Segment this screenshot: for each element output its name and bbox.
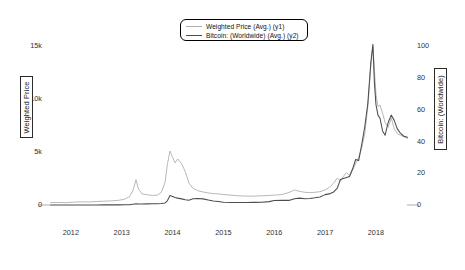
x-tick-2012: 2012 xyxy=(51,228,91,237)
y1-tick-5k: 5k xyxy=(4,147,42,156)
y2-tick-0: 0 xyxy=(417,200,455,209)
chart-legend: Weighted Price (Avg.) (y1) Bitcoin: (Wor… xyxy=(180,19,308,41)
y2-tick-20: 20 xyxy=(417,168,455,177)
legend-swatch-icon-series1 xyxy=(186,26,202,27)
y1-axis-title: Weighted Price xyxy=(20,76,33,138)
y2-tick-100: 100 xyxy=(417,41,455,50)
series-line-1 xyxy=(51,46,408,202)
series-line-2 xyxy=(51,44,408,205)
chart-container: 05k10k15k 020406080100 20122013201420152… xyxy=(0,0,465,270)
x-tick-2013: 2013 xyxy=(102,228,142,237)
x-tick-2018: 2018 xyxy=(356,228,396,237)
x-tick-2014: 2014 xyxy=(153,228,193,237)
y1-tick-15k: 15k xyxy=(4,41,42,50)
x-tick-2015: 2015 xyxy=(203,228,243,237)
legend-label-series2: Bitcoin: (Worldwide) (Avg.) (y2) xyxy=(206,32,299,39)
y2-axis-title-text: Bitcoin: (Worldwide) xyxy=(436,75,445,144)
y1-tick-0: 0 xyxy=(4,200,42,209)
y1-axis-title-text: Weighted Price xyxy=(22,81,31,133)
series-lines xyxy=(51,44,408,205)
x-tick-2017: 2017 xyxy=(305,228,345,237)
legend-item-bitcoin-worldwide: Bitcoin: (Worldwide) (Avg.) (y2) xyxy=(186,31,302,40)
y2-axis-title: Bitcoin: (Worldwide) xyxy=(434,68,447,150)
legend-swatch-icon-series2 xyxy=(186,35,202,36)
legend-item-weighted-price: Weighted Price (Avg.) (y1) xyxy=(186,22,302,31)
x-tick-2016: 2016 xyxy=(254,228,294,237)
legend-label-series1: Weighted Price (Avg.) (y1) xyxy=(206,23,284,30)
